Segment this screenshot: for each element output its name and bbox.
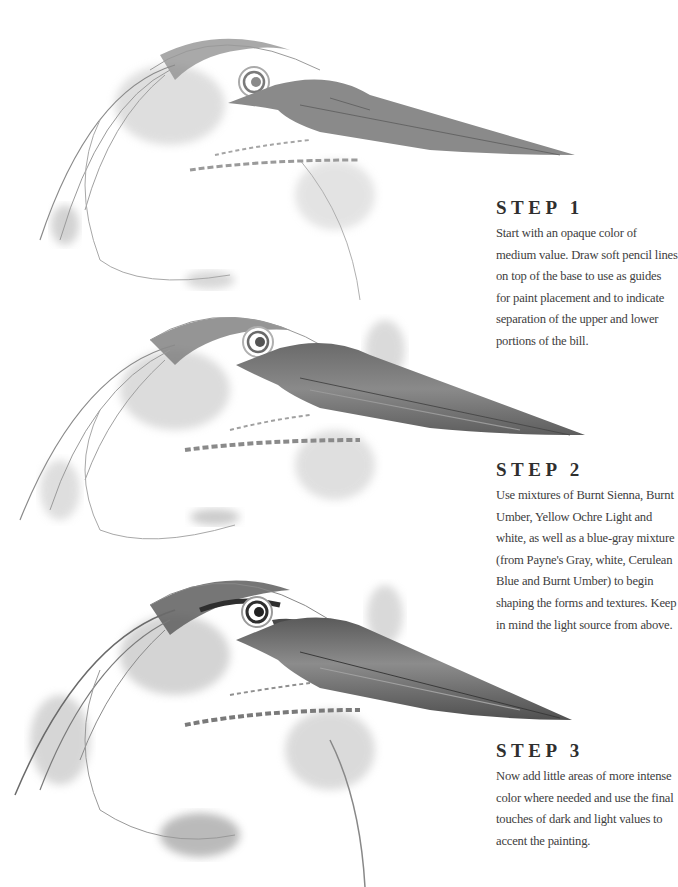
step-2-section: STEP 2 Use mixtures of Burnt Sienna, Bur… — [496, 459, 678, 636]
step-3-heading: STEP 3 — [496, 740, 678, 762]
step-2-description: Use mixtures of Burnt Sienna, Burnt Umbe… — [496, 485, 678, 636]
step-1-heading: STEP 1 — [496, 197, 678, 219]
book-page: STEP 1 Start with an opaque color of med… — [0, 0, 678, 887]
step-1-description: Start with an opaque color of medium val… — [496, 223, 678, 353]
step-3-description: Now add little areas of more intense col… — [496, 766, 678, 852]
step-1-section: STEP 1 Start with an opaque color of med… — [496, 197, 678, 353]
step-3-section: STEP 3 Now add little areas of more inte… — [496, 740, 678, 852]
step-2-heading: STEP 2 — [496, 459, 678, 481]
